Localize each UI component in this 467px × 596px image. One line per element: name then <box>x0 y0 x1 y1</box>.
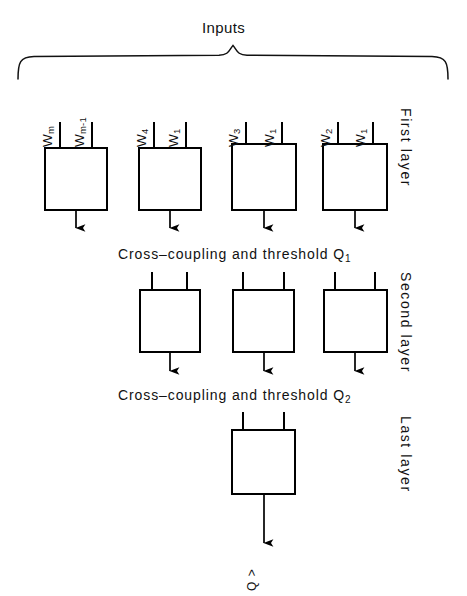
second-layer-group <box>140 272 387 371</box>
input-label-w-1-b: W1 <box>262 129 278 147</box>
second-layer-box-1 <box>140 272 200 371</box>
cross-coupling-caption-1: Cross–coupling and threshold Q1 <box>118 246 351 264</box>
second-layer-box-2 <box>233 272 294 371</box>
last-layer-side-label: Last layer <box>398 416 414 493</box>
output-label: Q > <box>245 568 259 591</box>
last-layer-box-1 <box>232 412 295 543</box>
input-label-w-2: W2 <box>318 129 334 147</box>
neural-network-layer-diagram: Inputs Wm Wm-1 W4 W1 W3 W1 W2 W1 First l… <box>0 0 467 596</box>
input-label-w-1-a: W1 <box>166 129 182 147</box>
second-layer-box-3 <box>324 272 387 371</box>
inputs-brace <box>18 46 448 80</box>
diagram-linework <box>0 0 467 596</box>
inputs-caption: Inputs <box>202 19 245 36</box>
input-label-w-m: Wm <box>40 126 56 147</box>
first-layer-group <box>45 122 387 228</box>
last-layer-group <box>232 412 295 543</box>
second-layer-side-label: Second layer <box>398 272 414 373</box>
input-label-w-m-1: Wm-1 <box>72 117 88 147</box>
input-label-w-1-c: W1 <box>353 129 369 147</box>
cross-coupling-caption-2: Cross–coupling and threshold Q2 <box>118 387 351 405</box>
input-label-w-4: W4 <box>134 129 150 147</box>
input-label-w-3: W3 <box>226 129 242 147</box>
first-layer-side-label: First layer <box>398 108 414 187</box>
